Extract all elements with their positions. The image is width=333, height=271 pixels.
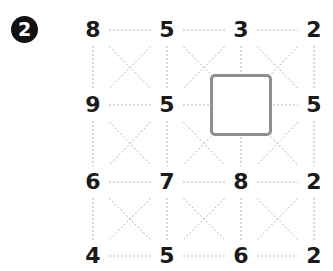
grid-number: 6 xyxy=(226,243,256,269)
grid-number: 9 xyxy=(78,92,108,118)
grid-number: 5 xyxy=(299,92,329,118)
grid-number: 8 xyxy=(78,17,108,43)
answer-box[interactable] xyxy=(210,74,272,136)
grid-number: 2 xyxy=(299,169,329,195)
grid-number: 6 xyxy=(78,169,108,195)
grid-number: 2 xyxy=(299,17,329,43)
grid-number: 8 xyxy=(226,169,256,195)
grid-number: 5 xyxy=(152,243,182,269)
grid-number: 4 xyxy=(78,243,108,269)
grid-number: 5 xyxy=(152,92,182,118)
grid-number: 5 xyxy=(152,17,182,43)
grid-number: 2 xyxy=(299,243,329,269)
grid-number: 7 xyxy=(152,169,182,195)
grid-number: 3 xyxy=(226,17,256,43)
